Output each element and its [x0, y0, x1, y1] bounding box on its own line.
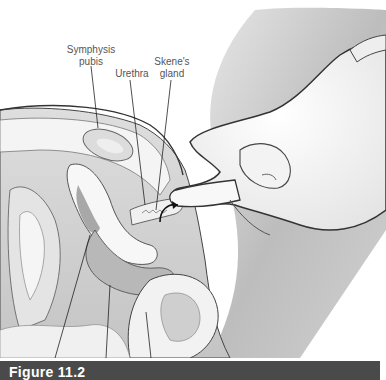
label-urethra-text: Urethra [112, 68, 152, 80]
label-skenes-gland: Skene's gland [152, 56, 192, 80]
label-skenes-line1: Skene's [152, 56, 192, 68]
label-symphysis-line2: pubis [64, 56, 118, 68]
figure-caption: Figure 11.2 [9, 364, 85, 380]
label-skenes-line2: gland [152, 68, 192, 80]
pelvic-anatomy-illustration [0, 0, 386, 358]
anatomical-figure: Symphysis pubis Urethra Skene's gland Fi… [0, 0, 386, 380]
label-symphysis-pubis: Symphysis pubis [64, 44, 118, 68]
figure-caption-bar: Figure 11.2 [0, 361, 380, 380]
label-symphysis-line1: Symphysis [64, 44, 118, 56]
label-urethra: Urethra [112, 68, 152, 80]
